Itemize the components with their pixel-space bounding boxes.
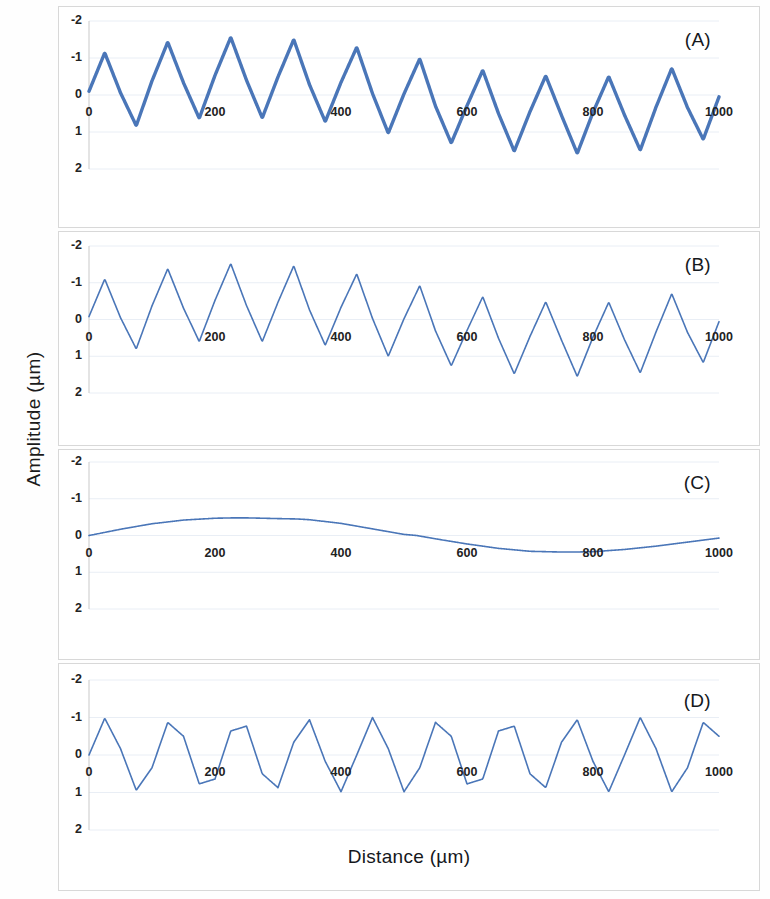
figure-panel-group: Amplitude (µm) (A) 210-1-202004006008001… xyxy=(0,0,770,899)
x-axis-title: Distance (µm) xyxy=(59,846,759,868)
y-tick-label: 0 xyxy=(60,528,82,542)
y-tick-label: -2 xyxy=(60,454,82,468)
y-tick-label: -1 xyxy=(60,275,82,289)
panel-c-label: (C) xyxy=(684,472,711,494)
y-tick-label: 2 xyxy=(60,601,82,615)
x-tick-label: 1000 xyxy=(699,105,739,119)
x-tick-label: 0 xyxy=(69,330,109,344)
x-tick-label: 200 xyxy=(195,765,235,779)
y-tick-label: -1 xyxy=(60,491,82,505)
x-tick-label: 400 xyxy=(321,765,361,779)
x-tick-label: 600 xyxy=(447,546,487,560)
panel-a-label: (A) xyxy=(685,29,711,51)
panel-a: (A) 210-1-202004006008001000 xyxy=(58,6,760,228)
panel-d-label: (D) xyxy=(684,690,711,712)
x-tick-label: 1000 xyxy=(699,546,739,560)
x-tick-label: 400 xyxy=(321,105,361,119)
chart-canvas xyxy=(59,450,761,661)
y-tick-label: -2 xyxy=(60,238,82,252)
y-tick-label: -2 xyxy=(60,13,82,27)
panel-b: (B) 210-1-202004006008001000 xyxy=(58,231,760,446)
x-tick-label: 600 xyxy=(447,330,487,344)
x-tick-label: 0 xyxy=(69,765,109,779)
y-tick-label: 0 xyxy=(60,747,82,761)
x-tick-label: 200 xyxy=(195,105,235,119)
x-tick-label: 600 xyxy=(447,105,487,119)
panel-c-plot xyxy=(59,450,759,659)
x-tick-label: 400 xyxy=(321,330,361,344)
x-tick-label: 800 xyxy=(573,546,613,560)
y-tick-label: 0 xyxy=(60,87,82,101)
y-tick-label: -1 xyxy=(60,710,82,724)
x-tick-label: 1000 xyxy=(699,765,739,779)
x-tick-label: 200 xyxy=(195,330,235,344)
chart-canvas xyxy=(59,7,761,229)
x-tick-label: 200 xyxy=(195,546,235,560)
x-tick-label: 800 xyxy=(573,765,613,779)
chart-canvas xyxy=(59,232,761,447)
x-tick-label: 800 xyxy=(573,330,613,344)
x-tick-label: 0 xyxy=(69,105,109,119)
y-tick-label: 1 xyxy=(60,564,82,578)
signal-trace xyxy=(89,518,719,552)
y-tick-label: -2 xyxy=(60,672,82,686)
x-tick-label: 600 xyxy=(447,765,487,779)
signal-trace xyxy=(89,264,719,376)
panel-d: (D) Distance (µm) 210-1-2020040060080010… xyxy=(58,663,760,891)
x-tick-label: 400 xyxy=(321,546,361,560)
y-tick-label: 0 xyxy=(60,312,82,326)
y-tick-label: 1 xyxy=(60,785,82,799)
y-tick-label: 2 xyxy=(60,822,82,836)
panel-a-plot xyxy=(59,7,759,227)
y-tick-label: 2 xyxy=(60,161,82,175)
y-tick-label: -1 xyxy=(60,50,82,64)
y-tick-label: 2 xyxy=(60,385,82,399)
y-axis-title: Amplitude (µm) xyxy=(23,289,45,549)
panel-b-label: (B) xyxy=(685,254,711,276)
y-tick-label: 1 xyxy=(60,348,82,362)
panel-c: (C) 210-1-202004006008001000 xyxy=(58,449,760,660)
x-tick-label: 800 xyxy=(573,105,613,119)
x-tick-label: 0 xyxy=(69,546,109,560)
x-tick-label: 1000 xyxy=(699,330,739,344)
panel-b-plot xyxy=(59,232,759,445)
y-tick-label: 1 xyxy=(60,124,82,138)
